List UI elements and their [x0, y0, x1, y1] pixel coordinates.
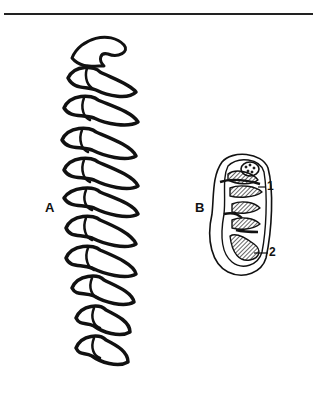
panel-a-drawing [62, 37, 138, 364]
panel-a-label: A [45, 200, 54, 215]
callout-2-label: 2 [269, 245, 276, 259]
callout-1-label: 1 [267, 179, 274, 193]
panel-b-drawing [210, 154, 272, 275]
panel-b-label: B [195, 200, 204, 215]
figure-canvas [0, 0, 313, 398]
